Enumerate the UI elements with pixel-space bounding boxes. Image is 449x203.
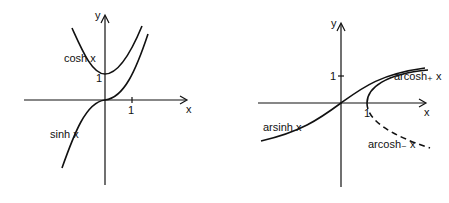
right-x-label: x <box>424 106 430 118</box>
left-plot: x y 1 1 cosh x sinh x <box>24 9 192 185</box>
right-y-tick-label: 1 <box>330 70 336 82</box>
left-x-tick-label: 1 <box>128 104 134 116</box>
right-y-label: y <box>331 17 337 29</box>
arsinh-label: arsinh x <box>263 121 302 133</box>
arcosh-minus-label: arcosh₋ x <box>368 138 416 150</box>
arcosh-plus-label: arcosh₊ x <box>394 70 442 82</box>
left-x-label: x <box>186 103 192 115</box>
right-plot: x y 1 1 arcosh₊ x arsinh x arcosh₋ x <box>258 17 442 187</box>
sinh-label: sinh x <box>50 128 79 140</box>
left-y-label: y <box>95 9 101 21</box>
figure: x y 1 1 cosh x sinh x x y 1 1 arcosh₊ x … <box>0 0 449 203</box>
cosh-label: cosh x <box>64 52 96 64</box>
cosh-curve <box>72 26 142 74</box>
